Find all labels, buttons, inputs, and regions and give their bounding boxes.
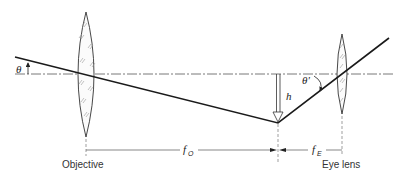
eye-lens-label: Eye lens [322, 159, 360, 170]
f-objective-dimension [86, 148, 277, 152]
telescope-diagram: θ θ' h f O f E Objective Eye lens [0, 0, 404, 179]
light-ray [15, 38, 389, 123]
f-objective-subscript: O [188, 150, 194, 157]
f-eye-dimension [279, 148, 342, 152]
theta-label: θ [16, 63, 22, 75]
theta-prime-label: θ' [302, 74, 310, 86]
theta-prime-arc [314, 76, 321, 91]
f-eye-subscript: E [317, 150, 322, 157]
h-label: h [286, 90, 292, 102]
image-height-arrow [273, 74, 283, 122]
objective-label: Objective [62, 159, 104, 170]
